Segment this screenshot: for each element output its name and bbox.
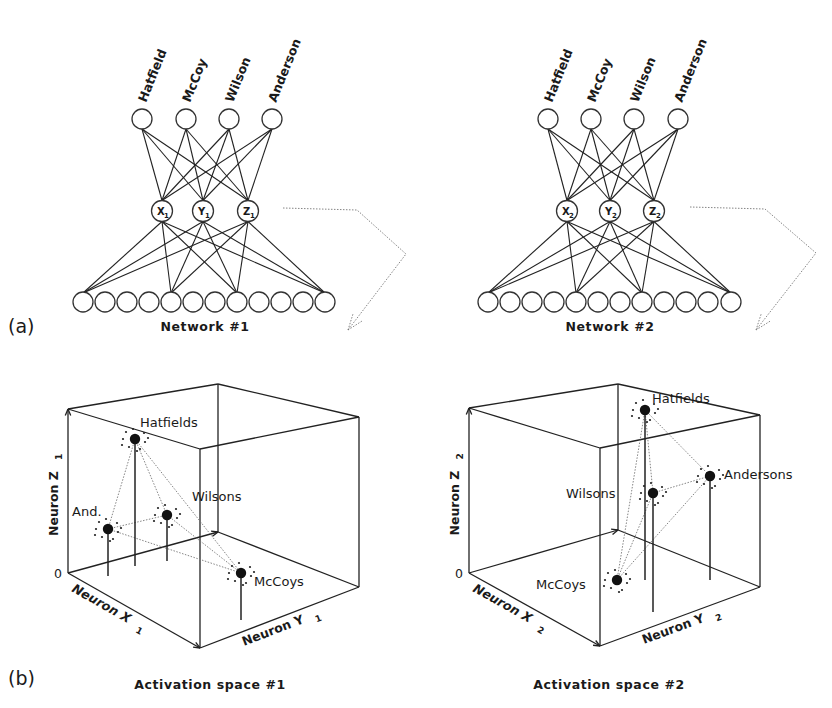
- cluster-label: McCoys: [254, 574, 304, 589]
- cluster-label: McCoys: [536, 577, 586, 592]
- exemplar-point: [139, 448, 141, 450]
- output-node-hatfield: [132, 109, 152, 129]
- y-axis: [200, 587, 359, 648]
- input-node: [566, 292, 586, 312]
- cube-edge: [469, 408, 600, 448]
- output-label: Wilson: [222, 55, 254, 104]
- output-node-mccoy: [176, 109, 196, 129]
- hidden-input-connection: [162, 222, 237, 294]
- cluster-label: Wilsons: [566, 486, 616, 501]
- output-hidden-connection: [654, 129, 678, 201]
- x-axis-arrowhead: [593, 645, 600, 646]
- network-1: HatfieldMcCoyWilsonAndersonX1Y1Z1: [73, 36, 406, 330]
- exemplar-point: [157, 507, 159, 509]
- exemplar-point: [610, 587, 612, 589]
- exemplar-point: [101, 536, 103, 538]
- output-label: Wilson: [627, 55, 659, 104]
- exemplar-point: [700, 468, 702, 470]
- y-axis-label-text: Neuron Y: [240, 611, 307, 649]
- exemplar-point: [117, 531, 119, 533]
- z-axis-subscript: 1: [54, 454, 64, 460]
- exemplar-point: [242, 584, 244, 586]
- cluster-link: [108, 529, 241, 573]
- x-axis-label: Neuron X1: [68, 581, 148, 637]
- input-node: [315, 292, 335, 312]
- exemplar-point: [94, 534, 96, 536]
- cluster-link: [653, 476, 710, 493]
- input-node: [183, 292, 203, 312]
- hidden-node-subscript: 1: [250, 212, 255, 220]
- exemplar-point: [128, 446, 130, 448]
- network-2: HatfieldMcCoyWilsonAndersonX2Y2Z2: [478, 36, 816, 330]
- cube-edge: [200, 417, 359, 449]
- exemplar-point: [646, 421, 648, 423]
- input-node: [73, 292, 93, 312]
- z-axis-label: Neuron Z2: [447, 453, 465, 535]
- hidden-node-subscript: 1: [164, 212, 169, 220]
- origin-label: 0: [54, 566, 62, 581]
- cube-edge: [218, 384, 359, 417]
- exemplar-point: [231, 565, 233, 567]
- cluster-center-mccoys: [612, 575, 622, 585]
- y-axis-subscript: 2: [714, 612, 723, 624]
- exemplar-point: [143, 432, 145, 434]
- output-node-hatfield: [538, 109, 558, 129]
- cluster-link: [108, 439, 135, 529]
- x-axis: [68, 573, 200, 648]
- exemplar-point: [657, 408, 659, 410]
- x-axis-subscript: 1: [134, 625, 144, 637]
- hidden-input-connection: [83, 222, 162, 294]
- exemplar-point: [249, 566, 251, 568]
- output-label: Anderson: [265, 36, 304, 104]
- input-node: [139, 292, 159, 312]
- panel-b-label: (b): [8, 667, 35, 689]
- hidden-node-subscript: 2: [612, 212, 617, 220]
- exemplar-point: [697, 475, 699, 477]
- exemplar-point: [147, 437, 149, 439]
- output-node-anderson: [668, 109, 688, 129]
- hidden-input-connection: [171, 222, 248, 294]
- network-diagrams: HatfieldMcCoyWilsonAndersonX1Y1Z1Hatfiel…: [73, 36, 816, 330]
- output-label: Hatfield: [541, 47, 576, 104]
- cluster-center-mccoys: [236, 568, 246, 578]
- exemplar-point: [168, 526, 170, 528]
- input-node: [293, 292, 313, 312]
- z-axis-label: Neuron Z1: [46, 454, 64, 536]
- output-node-wilson: [624, 109, 644, 129]
- exemplar-point: [121, 444, 123, 446]
- hidden-input-connection: [248, 222, 325, 294]
- exemplar-point: [109, 540, 111, 542]
- output-hidden-connection: [203, 129, 272, 201]
- hidden-node-subscript: 1: [205, 212, 210, 220]
- output-label: Anderson: [671, 36, 710, 104]
- exemplar-point: [696, 481, 698, 483]
- output-node-wilson: [219, 109, 239, 129]
- output-hidden-connection: [567, 129, 678, 201]
- exemplar-point: [711, 487, 713, 489]
- exemplar-point: [665, 491, 667, 493]
- output-hidden-connection: [567, 129, 591, 201]
- output-hidden-connection: [142, 129, 162, 201]
- exemplar-point: [245, 582, 247, 584]
- exemplar-point: [122, 438, 124, 440]
- activation-space-1-caption: Activation space #1: [134, 677, 286, 692]
- z-axis-label-text: Neuron Z: [46, 471, 61, 536]
- exemplar-point: [144, 441, 146, 443]
- hidden-input-connection: [203, 222, 237, 294]
- input-node: [522, 292, 542, 312]
- exemplar-point: [649, 419, 651, 421]
- cluster-label: And.: [72, 504, 102, 519]
- exemplar-point: [621, 589, 623, 591]
- hidden-input-connection: [488, 222, 654, 294]
- cube-edge: [68, 384, 218, 409]
- input-node: [95, 292, 115, 312]
- exemplar-point: [639, 498, 641, 500]
- cube-edge: [618, 530, 760, 587]
- cluster-label: Hatfields: [652, 391, 710, 406]
- cluster-label: Wilsons: [192, 489, 242, 504]
- y-axis-subscript: 1: [314, 613, 323, 625]
- exemplar-point: [116, 522, 118, 524]
- exemplar-point: [643, 485, 645, 487]
- exemplar-point: [238, 562, 240, 564]
- exemplar-point: [132, 428, 134, 430]
